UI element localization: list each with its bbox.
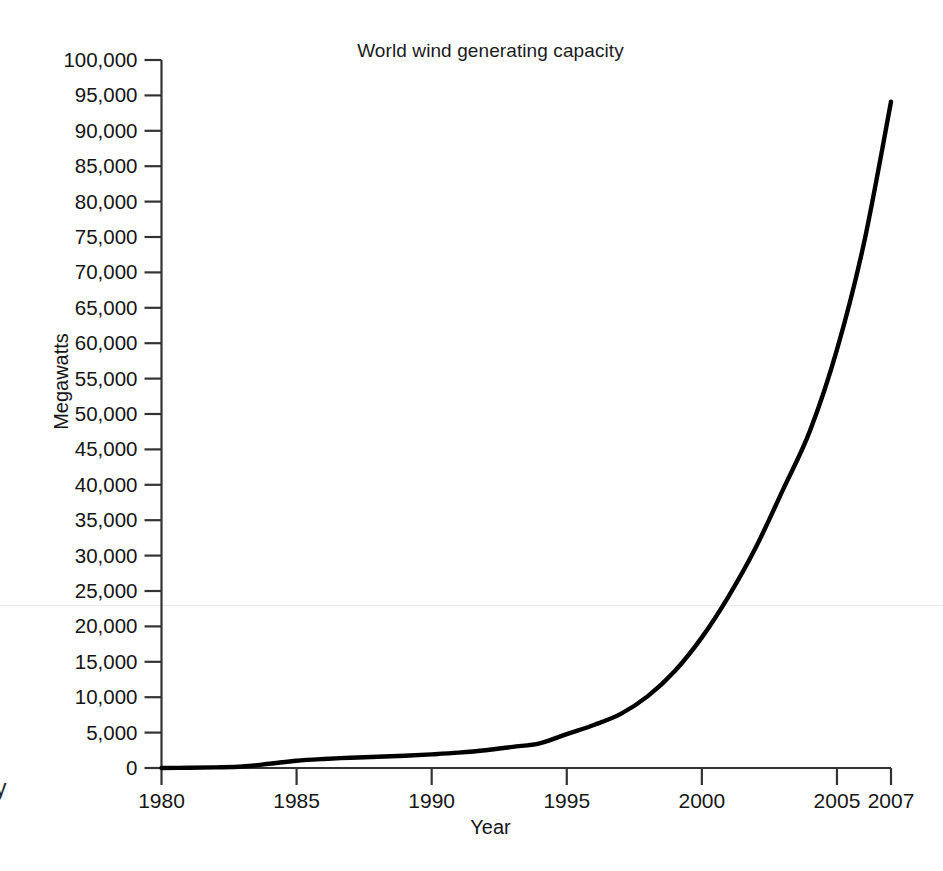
- y-tick-label: 15,000: [0, 652, 138, 673]
- x-tick-label: 1995: [521, 790, 613, 811]
- y-tick-label: 100,000: [0, 50, 138, 71]
- tick-marks-layer: [145, 60, 892, 785]
- y-tick-label: 35,000: [0, 510, 138, 531]
- y-tick-label: 30,000: [0, 546, 138, 567]
- y-tick-label: 60,000: [0, 333, 138, 354]
- y-tick-label: 20,000: [0, 616, 138, 637]
- axis-lines-layer: [162, 60, 892, 768]
- plot-area: [0, 0, 943, 871]
- y-tick-label: 65,000: [0, 298, 138, 319]
- y-tick-label: 80,000: [0, 192, 138, 213]
- y-tick-label: 75,000: [0, 227, 138, 248]
- data-series-line: [162, 102, 892, 768]
- y-tick-label: 85,000: [0, 156, 138, 177]
- wind-capacity-chart-figure: y World wind generating capacity Megawat…: [0, 0, 943, 871]
- y-tick-label: 5,000: [0, 723, 138, 744]
- y-tick-label: 10,000: [0, 687, 138, 708]
- x-tick-label: 1990: [386, 790, 478, 811]
- x-tick-label: 1985: [251, 790, 343, 811]
- x-tick-label: 2000: [656, 790, 748, 811]
- y-tick-label: 50,000: [0, 404, 138, 425]
- y-tick-label: 95,000: [0, 85, 138, 106]
- y-tick-label: 40,000: [0, 475, 138, 496]
- y-tick-label: 25,000: [0, 581, 138, 602]
- y-tick-label: 90,000: [0, 121, 138, 142]
- y-tick-label: 45,000: [0, 439, 138, 460]
- y-tick-label: 55,000: [0, 369, 138, 390]
- x-tick-label: 1980: [116, 790, 208, 811]
- x-tick-label: 2007: [845, 790, 937, 811]
- y-tick-label: 0: [0, 758, 138, 779]
- y-tick-label: 70,000: [0, 262, 138, 283]
